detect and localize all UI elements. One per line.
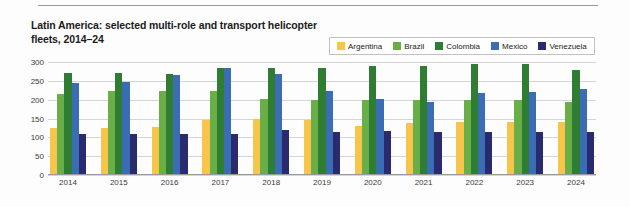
bar-group-2023 — [507, 62, 543, 175]
bar-argentina-2015[interactable] — [101, 128, 108, 175]
legend-swatch-icon — [337, 42, 345, 50]
bar-group-2018 — [253, 62, 289, 175]
bar-mexico-2018[interactable] — [275, 74, 282, 175]
bar-mexico-2017[interactable] — [224, 68, 231, 175]
bar-colombia-2017[interactable] — [217, 68, 224, 175]
bar-colombia-2018[interactable] — [268, 68, 275, 175]
x-axis-tick-label: 2024 — [558, 178, 594, 187]
y-axis-tick-labels: 300250200150100500 — [0, 62, 44, 175]
legend-item-brazil[interactable]: Brazil — [393, 42, 424, 51]
y-axis-tick-label: 150 — [4, 114, 44, 123]
bar-venezuela-2017[interactable] — [231, 134, 238, 175]
bar-brazil-2020[interactable] — [362, 100, 369, 175]
bar-argentina-2023[interactable] — [507, 122, 514, 175]
bar-group-2014 — [50, 62, 86, 175]
bar-colombia-2014[interactable] — [64, 73, 71, 175]
bar-group-2021 — [406, 62, 442, 175]
bar-colombia-2023[interactable] — [522, 64, 529, 175]
bar-argentina-2024[interactable] — [558, 122, 565, 175]
bar-colombia-2019[interactable] — [318, 68, 325, 175]
legend-item-label: Mexico — [502, 42, 527, 51]
y-axis-tick-label: 200 — [4, 95, 44, 104]
plot-area — [48, 62, 596, 175]
x-axis-tick-label: 2019 — [304, 178, 340, 187]
bar-colombia-2022[interactable] — [471, 64, 478, 175]
bar-brazil-2024[interactable] — [565, 102, 572, 175]
bar-group-2017 — [202, 62, 238, 175]
chart-figure: Latin America: selected multi-role and t… — [0, 0, 630, 207]
bar-colombia-2016[interactable] — [166, 74, 173, 175]
gridline — [48, 175, 596, 176]
x-axis-tick-label: 2023 — [507, 178, 543, 187]
y-axis-tick-label: 100 — [4, 133, 44, 142]
bar-mexico-2015[interactable] — [122, 82, 129, 175]
bar-venezuela-2019[interactable] — [333, 132, 340, 175]
bar-brazil-2021[interactable] — [413, 100, 420, 175]
bar-argentina-2016[interactable] — [152, 127, 159, 175]
bar-argentina-2018[interactable] — [253, 119, 260, 175]
bar-colombia-2021[interactable] — [420, 66, 427, 175]
bar-venezuela-2018[interactable] — [282, 130, 289, 175]
x-axis-tick-label: 2022 — [456, 178, 492, 187]
bar-venezuela-2016[interactable] — [180, 134, 187, 175]
bar-argentina-2014[interactable] — [50, 128, 57, 175]
bar-venezuela-2024[interactable] — [587, 132, 594, 175]
y-axis-tick-label: 250 — [4, 76, 44, 85]
bar-brazil-2017[interactable] — [210, 91, 217, 175]
bar-mexico-2016[interactable] — [173, 75, 180, 175]
legend-item-argentina[interactable]: Argentina — [337, 42, 382, 51]
legend-item-venezuela[interactable]: Venezuela — [538, 42, 586, 51]
bar-mexico-2019[interactable] — [326, 91, 333, 175]
y-axis-tick-label: 300 — [4, 58, 44, 67]
bar-mexico-2022[interactable] — [478, 93, 485, 175]
bar-argentina-2020[interactable] — [355, 126, 362, 175]
bar-brazil-2016[interactable] — [159, 91, 166, 175]
bar-brazil-2022[interactable] — [464, 100, 471, 175]
bar-groups-layer — [48, 62, 596, 175]
bar-mexico-2023[interactable] — [529, 92, 536, 175]
legend-item-mexico[interactable]: Mexico — [491, 42, 527, 51]
bar-argentina-2019[interactable] — [304, 120, 311, 175]
bar-brazil-2014[interactable] — [57, 94, 64, 175]
bar-group-2022 — [456, 62, 492, 175]
legend-item-label: Brazil — [404, 42, 424, 51]
bar-argentina-2022[interactable] — [456, 122, 463, 175]
bar-mexico-2020[interactable] — [376, 99, 383, 175]
bar-group-2015 — [101, 62, 137, 175]
bar-venezuela-2020[interactable] — [384, 131, 391, 175]
bar-venezuela-2015[interactable] — [130, 134, 137, 175]
top-divider-rule — [38, 5, 598, 6]
bar-brazil-2018[interactable] — [260, 99, 267, 175]
x-axis-tick-label: 2015 — [101, 178, 137, 187]
legend-swatch-icon — [435, 42, 443, 50]
legend-item-label: Venezuela — [549, 42, 586, 51]
bar-argentina-2021[interactable] — [406, 123, 413, 175]
x-axis-baseline — [48, 174, 596, 175]
x-axis-tick-label: 2020 — [355, 178, 391, 187]
bar-venezuela-2023[interactable] — [536, 132, 543, 175]
x-axis-tick-label: 2016 — [152, 178, 188, 187]
legend-swatch-icon — [393, 42, 401, 50]
bar-argentina-2017[interactable] — [202, 120, 209, 175]
bar-venezuela-2014[interactable] — [79, 134, 86, 175]
bar-colombia-2020[interactable] — [369, 66, 376, 175]
chart-title: Latin America: selected multi-role and t… — [31, 18, 321, 46]
x-axis-tick-labels: 2014201520162017201820192020202120222023… — [48, 178, 596, 187]
bar-brazil-2019[interactable] — [311, 100, 318, 175]
x-axis-tick-label: 2017 — [202, 178, 238, 187]
bar-mexico-2014[interactable] — [72, 83, 79, 175]
bar-colombia-2015[interactable] — [115, 73, 122, 175]
x-axis-tick-label: 2021 — [406, 178, 442, 187]
legend-item-colombia[interactable]: Colombia — [435, 42, 480, 51]
bar-venezuela-2022[interactable] — [485, 132, 492, 175]
legend-item-label: Argentina — [348, 42, 382, 51]
legend-swatch-icon — [538, 42, 546, 50]
legend-item-label: Colombia — [446, 42, 480, 51]
legend-swatch-icon — [491, 42, 499, 50]
bar-brazil-2015[interactable] — [108, 91, 115, 175]
bar-brazil-2023[interactable] — [514, 100, 521, 175]
bar-venezuela-2021[interactable] — [434, 132, 441, 175]
bar-colombia-2024[interactable] — [572, 70, 579, 175]
bar-mexico-2024[interactable] — [580, 89, 587, 175]
bar-mexico-2021[interactable] — [427, 102, 434, 175]
